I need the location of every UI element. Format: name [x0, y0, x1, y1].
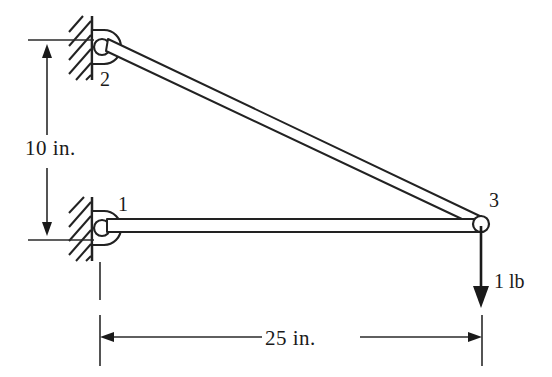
hatching-lower — [69, 197, 91, 261]
member-1-3 — [107, 219, 483, 232]
vertical-dimension-label: 10 in. — [25, 136, 76, 160]
hatching-upper — [69, 16, 91, 80]
applied-load-arrow — [473, 226, 489, 308]
horizontal-dimension-label: 25 in. — [265, 326, 316, 350]
vertical-dim-arrow-top — [42, 44, 52, 58]
truss-diagram-canvas: 10 in. 25 in. 2 1 3 1 lb — [0, 0, 552, 377]
member-2-3 — [106, 39, 484, 228]
truss-diagram-figure: 10 in. 25 in. 2 1 3 1 lb — [0, 0, 552, 377]
joint-label-3: 3 — [489, 189, 499, 211]
joint-label-1: 1 — [118, 193, 128, 215]
horizontal-dimension-group: 25 in. — [100, 262, 482, 366]
joint-label-2: 2 — [100, 68, 110, 90]
vertical-dim-arrow-bottom — [42, 222, 52, 236]
load-label: 1 lb — [494, 270, 525, 292]
horizontal-dim-arrow-right — [468, 332, 482, 342]
truss-members — [106, 39, 489, 232]
horizontal-dim-arrow-left — [100, 332, 114, 342]
load-arrow-head — [473, 286, 489, 308]
